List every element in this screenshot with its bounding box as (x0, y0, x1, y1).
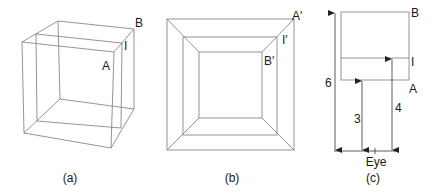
caption-a: (a) (63, 171, 78, 185)
label-i-prime: I′ (282, 33, 288, 47)
label-a-a: A (102, 59, 110, 73)
cube-front-face (22, 42, 114, 148)
cube-back-face (58, 21, 134, 109)
diagonal (262, 19, 294, 52)
label-a-prime: A′ (292, 9, 303, 23)
label-b-a: B (135, 16, 143, 30)
dimension-label-6: 6 (325, 76, 332, 90)
label-i-a: I (124, 39, 127, 53)
cube-edge (24, 99, 60, 133)
caption-b: (b) (225, 171, 240, 185)
label-i-c: I (411, 55, 414, 69)
side-box (341, 12, 409, 80)
label-eye: Eye (366, 155, 387, 169)
dimension-label-4: 4 (395, 101, 402, 115)
cube-edge (111, 109, 134, 148)
cube-edge (22, 21, 58, 42)
figure-canvas: B I A (a) A′ I′ B′ (b) B I A 6 3 4 Eye (… (0, 0, 437, 196)
label-a-c: A (409, 82, 417, 96)
caption-c: (c) (366, 171, 380, 185)
panel-c-side-view (334, 12, 409, 154)
diagonal (262, 118, 294, 150)
panel-a-cube (22, 21, 134, 148)
panel-b-front-view (167, 19, 294, 150)
label-b-prime: B′ (264, 54, 275, 68)
inner-square (199, 52, 262, 118)
dimension-label-3: 3 (354, 112, 361, 126)
label-b-c: B (411, 6, 419, 20)
